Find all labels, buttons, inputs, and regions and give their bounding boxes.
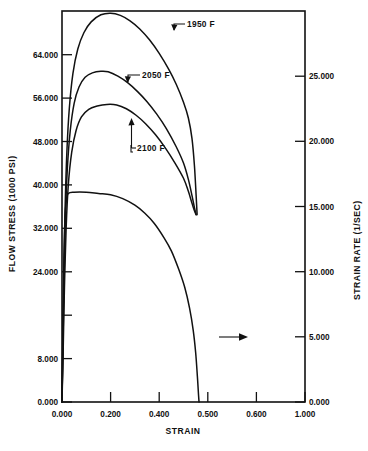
y-tick-label-64: 64.000	[33, 51, 58, 60]
right-axis-tick-labels: 0.000 5.000 10.000 15.000 20.000 25.000	[309, 72, 334, 407]
y-tick-label-32: 32.000	[33, 224, 58, 233]
y-tick-label-56: 56.000	[33, 94, 58, 103]
series-label-2050f: 2050 F	[142, 70, 170, 80]
y-tick-label-48: 48.000	[33, 138, 58, 147]
right-axis-ticks	[295, 76, 305, 402]
x-tick-label-1: 0.200	[100, 410, 121, 419]
curve-2050f	[62, 71, 196, 402]
curve-2100f	[62, 104, 196, 402]
y2-tick-label-25: 25.000	[309, 72, 334, 81]
y2-tick-label-10: 10.000	[309, 268, 334, 277]
x-tick-label-4: 0.600	[246, 410, 267, 419]
series-label-1950f: 1950 F	[187, 19, 215, 29]
x-axis-title: STRAIN	[166, 426, 201, 436]
x-axis-tick-labels: 0.000 0.200 0.400 0.500 0.600 1.000	[52, 410, 316, 419]
right-axis-title: STRAIN RATE (1/SEC)	[352, 200, 362, 300]
arrowhead-1950f	[171, 24, 177, 31]
x-tick-label-3: 0.500	[198, 410, 219, 419]
arrowhead-2100f	[128, 118, 134, 126]
left-axis-tick-labels: 0.000 8.000 24.000 32.000 40.000 48.000 …	[33, 51, 58, 407]
y-tick-label-8: 8.000	[38, 355, 59, 364]
y2-tick-label-0: 0.000	[309, 398, 330, 407]
x-tick-label-5: 1.000	[295, 410, 316, 419]
x-tick-label-2: 0.400	[149, 410, 170, 419]
left-axis-title: FLOW STRESS (1000 PSI)	[7, 155, 17, 272]
curve-strain-rate	[62, 192, 199, 402]
series-label-2100f: 2100 F	[137, 143, 165, 153]
y2-tick-label-15: 15.000	[309, 203, 334, 212]
y2-tick-label-5: 5.000	[309, 333, 330, 342]
chart-canvas: 0.000 8.000 24.000 32.000 40.000 48.000 …	[0, 0, 368, 451]
curve-1950f	[62, 13, 197, 402]
plot-frame	[62, 11, 305, 402]
y-tick-label-24: 24.000	[33, 268, 58, 277]
x-tick-label-0: 0.000	[52, 410, 73, 419]
strain-rate-arrow-icon	[239, 333, 248, 341]
y-tick-label-0: 0.000	[38, 398, 59, 407]
y-tick-label-40: 40.000	[33, 181, 58, 190]
flow-stress-strain-chart: 0.000 8.000 24.000 32.000 40.000 48.000 …	[0, 0, 368, 451]
y2-tick-label-20: 20.000	[309, 137, 334, 146]
data-curves	[62, 13, 199, 402]
x-axis-ticks	[62, 392, 305, 402]
